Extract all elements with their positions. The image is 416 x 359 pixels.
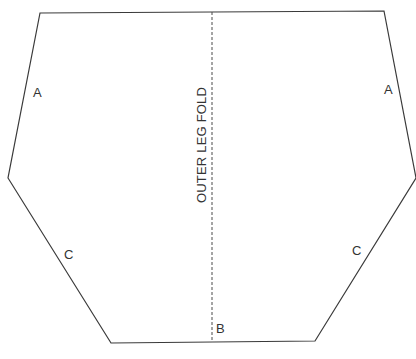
edge-label-c-right: C bbox=[352, 244, 361, 257]
edge-label-b: B bbox=[216, 322, 225, 335]
fold-label: OUTER LEG FOLD bbox=[194, 87, 209, 203]
edge-label-c-left: C bbox=[64, 248, 73, 261]
edge-label-a-left: A bbox=[33, 86, 42, 99]
edge-label-a-right: A bbox=[384, 83, 393, 96]
